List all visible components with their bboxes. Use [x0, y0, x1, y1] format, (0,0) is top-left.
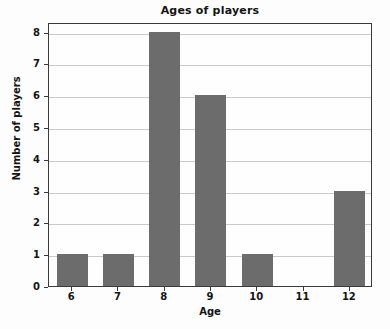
y-tick-label: 8 — [26, 27, 40, 38]
y-tick-label: 4 — [26, 154, 40, 165]
y-tick-label: 0 — [26, 281, 40, 292]
plot-area — [48, 23, 372, 287]
chart-title: Ages of players — [48, 4, 372, 17]
bar — [195, 95, 226, 286]
x-tick-label: 9 — [198, 291, 222, 302]
x-tick-label: 12 — [337, 291, 361, 302]
y-tick-mark — [44, 33, 48, 34]
bar — [334, 191, 365, 286]
x-axis-title: Age — [48, 306, 372, 317]
x-tick-label: 10 — [244, 291, 268, 302]
x-tick-label: 7 — [105, 291, 129, 302]
y-tick-label: 2 — [26, 217, 40, 228]
y-tick-mark — [44, 96, 48, 97]
bar — [242, 254, 273, 286]
x-tick-label: 11 — [291, 291, 315, 302]
y-tick-mark — [44, 255, 48, 256]
x-tick-label: 8 — [152, 291, 176, 302]
y-tick-mark — [44, 223, 48, 224]
y-tick-mark — [44, 128, 48, 129]
y-tick-label: 6 — [26, 90, 40, 101]
y-tick-mark — [44, 64, 48, 65]
y-tick-label: 1 — [26, 249, 40, 260]
y-axis-title: Number of players — [11, 64, 22, 194]
y-tick-label: 5 — [26, 122, 40, 133]
y-tick-label: 3 — [26, 186, 40, 197]
gridline — [49, 34, 371, 35]
bar — [103, 254, 134, 286]
bar — [149, 32, 180, 286]
y-tick-mark — [44, 160, 48, 161]
y-tick-mark — [44, 192, 48, 193]
bar — [57, 254, 88, 286]
gridline — [49, 65, 371, 66]
y-tick-label: 7 — [26, 58, 40, 69]
bar-chart: Ages of players 012345678 Number of play… — [0, 0, 390, 329]
x-tick-label: 6 — [59, 291, 83, 302]
y-tick-mark — [44, 287, 48, 288]
